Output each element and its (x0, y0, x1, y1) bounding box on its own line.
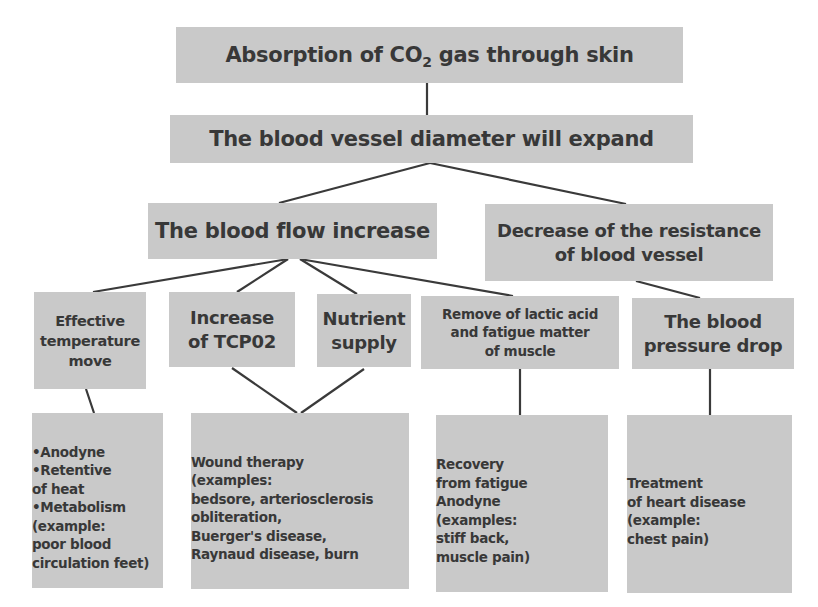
node-line: (example: (32, 517, 105, 536)
connector-flow-to-temperature (93, 259, 288, 292)
node-anodyne-metabolism: •Anodyne •Retentive of heat •Metabolism … (32, 413, 163, 588)
node-line: Anodyne (436, 492, 500, 511)
node-line: of heart disease (627, 493, 746, 512)
node-line: muscle pain) (436, 548, 530, 567)
node-line: Wound therapy (191, 453, 304, 472)
node-line: (examples: (436, 511, 517, 530)
connector-temperature-to-anodyne (86, 389, 94, 413)
node-line: pressure drop (644, 334, 783, 358)
node-co2-absorption-label: Absorption of CO2 gas through skin (225, 42, 633, 68)
node-resistance-decrease: Decrease of the resistance of blood vess… (485, 204, 773, 281)
node-line: poor blood (32, 535, 111, 554)
root-subscript: 2 (422, 54, 431, 70)
node-line: temperature (40, 331, 140, 351)
node-line: from fatigue (436, 474, 527, 493)
node-line: •Retentive (32, 461, 111, 480)
node-lactic-acid-removal: Remove of lactic acid and fatigue matter… (421, 296, 619, 369)
node-increase-tcpo2: Increase of TCP02 (169, 292, 295, 367)
node-line: of TCP02 (188, 330, 276, 354)
node-line: chest pain) (627, 530, 709, 549)
connector-expand-to-resistance (430, 163, 626, 204)
node-vessel-diameter-expand: The blood vessel diameter will expand (170, 115, 693, 163)
root-text-part1: Absorption of CO (225, 43, 422, 67)
connector-flow-to-tcpo2 (237, 259, 288, 292)
node-line: Recovery (436, 455, 504, 474)
node-line: The blood (664, 310, 762, 334)
node-heart-disease-treatment: Treatment of heart disease (example: che… (627, 415, 792, 593)
node-line: Decrease of the resistance (497, 219, 761, 243)
node-line: Remove of lactic acid (442, 305, 598, 324)
node-blood-pressure-drop: The blood pressure drop (632, 298, 794, 369)
node-line: Treatment (627, 474, 703, 493)
node-fatigue-recovery: Recovery from fatigue Anodyne (examples:… (436, 415, 608, 592)
node-line: •Anodyne (32, 443, 105, 462)
node-line: obliteration, (191, 508, 282, 527)
node-line: (examples: (191, 471, 272, 490)
node-line: Raynaud disease, burn (191, 545, 358, 564)
node-effective-temperature-move: Effective temperature move (34, 292, 146, 389)
node-nutrient-supply: Nutrient supply (317, 294, 411, 367)
connector-nutrient-to-wound (301, 369, 364, 413)
node-line: move (68, 351, 111, 371)
node-line: supply (331, 331, 396, 355)
node-line: of heat (32, 480, 84, 499)
connector-expand-to-flow (279, 163, 430, 203)
node-wound-therapy: Wound therapy (examples: bedsore, arteri… (191, 413, 409, 589)
node-blood-flow-increase-label: The blood flow increase (155, 218, 430, 244)
node-line: and fatigue matter (451, 323, 590, 342)
node-line: Nutrient (323, 307, 406, 331)
connector-tcpo2-to-wound (232, 368, 297, 413)
node-co2-absorption: Absorption of CO2 gas through skin (176, 27, 683, 83)
node-blood-flow-increase: The blood flow increase (148, 203, 437, 259)
node-line: stiff back, (436, 529, 509, 548)
node-line: of muscle (485, 342, 556, 361)
node-line: Effective (55, 311, 124, 331)
connector-resistance-to-pressure (636, 281, 700, 298)
node-line: Increase (190, 306, 274, 330)
connector-flow-to-nutrient (300, 259, 357, 294)
node-line: bedsore, arteriosclerosis (191, 490, 373, 509)
root-text-part2: gas through skin (432, 43, 634, 67)
node-line: Buerger's disease, (191, 527, 327, 546)
node-line: •Metabolism (32, 498, 126, 517)
node-line: of blood vessel (555, 243, 704, 267)
node-vessel-diameter-expand-label: The blood vessel diameter will expand (209, 126, 654, 152)
connector-flow-to-lactic (300, 259, 513, 296)
node-line: (example: (627, 511, 700, 530)
node-line: circulation feet) (32, 554, 149, 573)
